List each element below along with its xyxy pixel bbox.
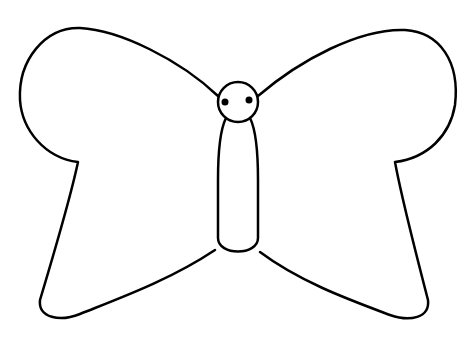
butterfly-drawing (0, 0, 469, 343)
right-wing (258, 30, 456, 318)
right-eye (246, 97, 253, 104)
butterfly-icon (0, 0, 469, 343)
left-eye (222, 99, 229, 106)
body (218, 118, 258, 252)
left-wing (20, 28, 218, 318)
